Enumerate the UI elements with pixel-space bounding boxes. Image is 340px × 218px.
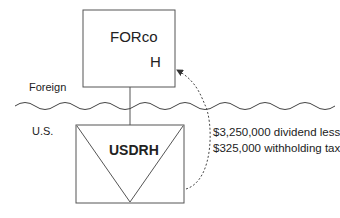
diagram-graphics (0, 0, 340, 218)
usdrh-box (76, 125, 184, 203)
dividend-annotation-line1: $3,250,000 dividend less (213, 126, 340, 138)
forco-label: FORco (110, 28, 158, 45)
border-wave-line (15, 103, 335, 110)
dividend-arrow (177, 70, 210, 189)
forco-suffix-label: H (150, 53, 161, 70)
us-region-label: U.S. (32, 125, 53, 137)
forco-box (83, 10, 175, 87)
usdrh-triangle-icon (77, 126, 183, 202)
usdrh-label: USDRH (109, 142, 159, 158)
dividend-annotation-line2: $325,000 withholding tax (213, 142, 340, 154)
ownership-diagram: FORco H Foreign U.S. USDRH $3,250,000 di… (0, 0, 340, 218)
foreign-region-label: Foreign (29, 81, 66, 93)
